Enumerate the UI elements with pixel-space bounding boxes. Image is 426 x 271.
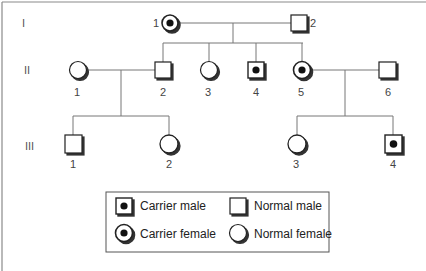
normal-male-icon bbox=[291, 15, 307, 31]
normal-female-icon bbox=[70, 62, 87, 79]
individual-III-1: 1 bbox=[65, 135, 82, 170]
individual-I-1: 1 bbox=[153, 15, 178, 31]
normal-male-icon bbox=[155, 62, 171, 78]
carrier-dot-icon bbox=[252, 66, 259, 73]
carrier-dot-icon bbox=[166, 19, 173, 26]
normal-female-icon bbox=[160, 135, 178, 153]
normal-female-icon bbox=[201, 62, 218, 79]
individual-number: 5 bbox=[298, 86, 304, 98]
legend-label: Carrier male bbox=[140, 199, 206, 213]
carrier-dot-icon bbox=[120, 229, 127, 236]
individual-II-4: 4 bbox=[248, 62, 264, 98]
individual-III-3: 3 bbox=[288, 135, 306, 170]
legend-item-carrier-male: Carrier male bbox=[116, 198, 206, 214]
normal-female-icon bbox=[230, 225, 247, 242]
relationship-lines bbox=[73, 23, 393, 137]
individual-number: 1 bbox=[153, 17, 159, 29]
normal-male-icon bbox=[230, 198, 246, 214]
legend-label: Normal female bbox=[254, 227, 332, 241]
individual-II-5: 5 bbox=[294, 62, 311, 99]
individual-number: 2 bbox=[160, 86, 166, 98]
legend-label: Normal male bbox=[254, 199, 322, 213]
individual-number: 2 bbox=[166, 158, 172, 170]
generation-label-II: II bbox=[24, 64, 30, 76]
individual-number: 1 bbox=[70, 158, 76, 170]
pedigree-chart: I II III 1 2 1 2 bbox=[0, 0, 426, 271]
individual-I-2: 2 bbox=[291, 15, 316, 31]
individual-II-2: 2 bbox=[155, 62, 171, 98]
individual-number: 3 bbox=[205, 86, 211, 98]
individual-number: 3 bbox=[293, 158, 299, 170]
normal-male-icon bbox=[65, 135, 82, 153]
individual-II-1: 1 bbox=[70, 62, 87, 99]
individual-number: 6 bbox=[385, 86, 391, 98]
normal-female-icon bbox=[288, 135, 306, 153]
carrier-dot-icon bbox=[120, 202, 127, 209]
generation-label-III: III bbox=[25, 140, 34, 152]
individual-II-3: 3 bbox=[201, 62, 218, 99]
individual-III-4: 4 bbox=[385, 135, 402, 170]
legend-item-normal-male: Normal male bbox=[230, 198, 322, 214]
carrier-dot-icon bbox=[298, 66, 305, 73]
generation-label-I: I bbox=[22, 17, 25, 29]
individual-III-2: 2 bbox=[160, 135, 178, 170]
individual-number: 4 bbox=[390, 158, 396, 170]
normal-male-icon bbox=[379, 62, 396, 78]
legend: Carrier male Normal male Carrier female … bbox=[106, 192, 332, 252]
legend-label: Carrier female bbox=[140, 227, 216, 241]
carrier-dot-icon bbox=[390, 140, 398, 148]
legend-item-carrier-female: Carrier female bbox=[116, 225, 217, 242]
individual-number: 1 bbox=[74, 86, 80, 98]
individual-II-6: 6 bbox=[379, 62, 396, 98]
individual-number: 2 bbox=[310, 17, 316, 29]
individual-number: 4 bbox=[253, 86, 259, 98]
